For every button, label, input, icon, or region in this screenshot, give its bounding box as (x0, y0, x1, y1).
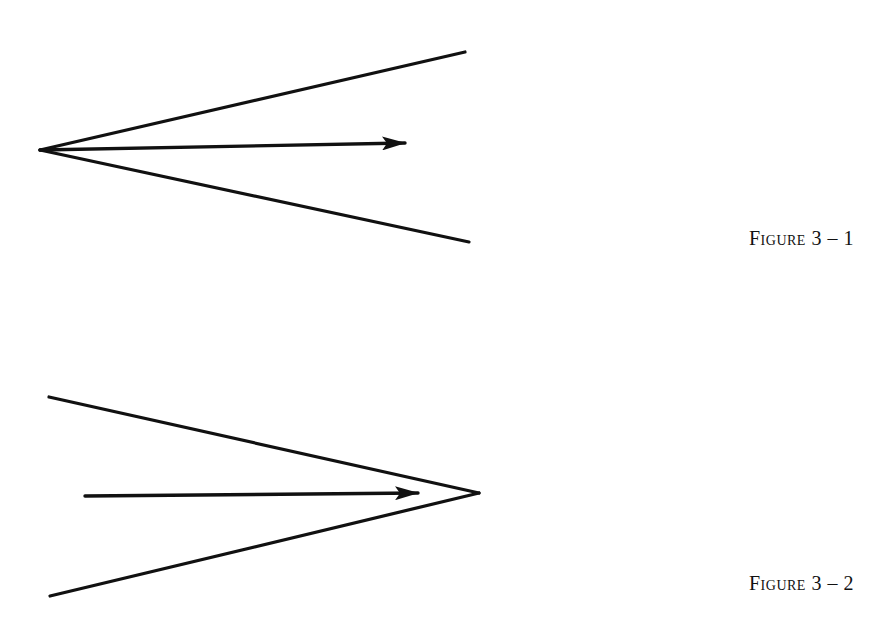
diagram-canvas (0, 0, 884, 617)
figure-3-2-diagram (49, 397, 479, 596)
figure-3-2-lower-ray (50, 493, 479, 596)
figure-3-1-upper-ray (40, 52, 465, 150)
figure-3-2-upper-ray (49, 397, 479, 493)
figure-3-2-arrow (85, 493, 418, 496)
figure-3-2-caption: Figure 3 – 2 (749, 572, 854, 595)
figure-3-1-arrow (40, 143, 405, 150)
figure-3-1-lower-ray (40, 150, 469, 242)
figure-3-1-caption: Figure 3 – 1 (749, 227, 854, 250)
figure-3-1-diagram (40, 52, 469, 242)
